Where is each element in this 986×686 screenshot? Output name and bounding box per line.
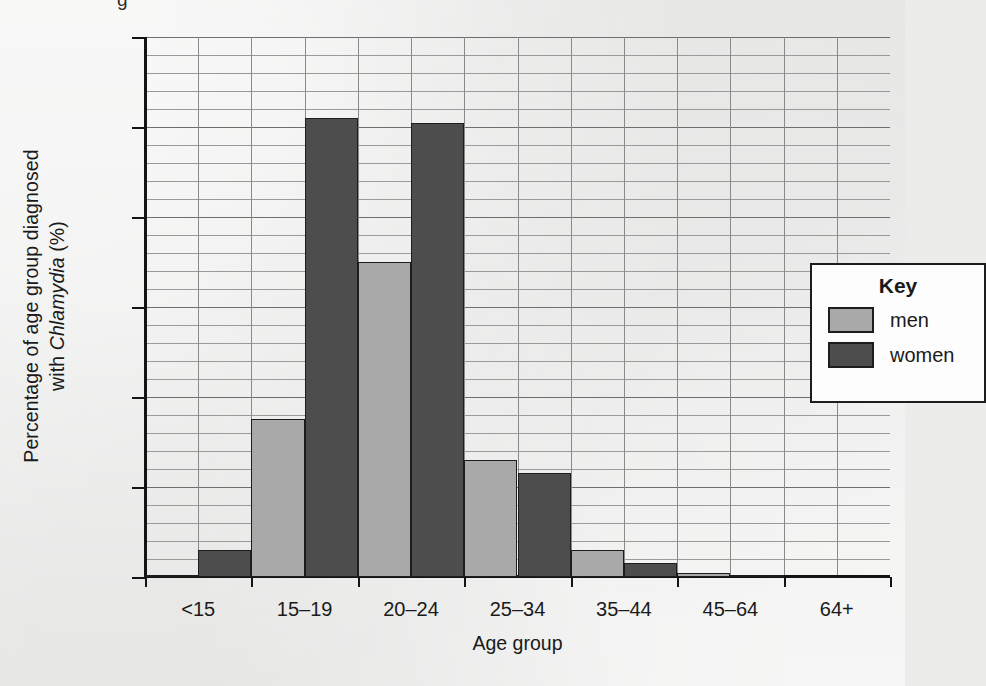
- bar-men-3544: [571, 550, 624, 577]
- y-tick-mark: [132, 307, 145, 309]
- plot-area: 0.00.51.01.52.02.53.0 <1515–1920–2425–34…: [145, 37, 890, 577]
- x-tick-label-15: <15: [138, 598, 258, 621]
- x-tick-mark: [571, 577, 573, 587]
- bar-women-1519: [305, 118, 358, 577]
- y-axis-title-line2-post: (%): [46, 221, 68, 257]
- x-tick-mark: [677, 577, 679, 587]
- bar-women-2534: [518, 473, 571, 577]
- legend-swatch-men: [828, 307, 874, 333]
- legend-label-women: women: [890, 344, 954, 367]
- y-tick-mark: [132, 487, 145, 489]
- bar-men-2534: [464, 460, 517, 577]
- y-tick-mark: [132, 577, 145, 579]
- x-tick-mark: [358, 577, 360, 587]
- bar-men-4564: [677, 573, 730, 578]
- legend-label-men: men: [890, 309, 929, 332]
- x-tick-label-64: 64+: [777, 598, 897, 621]
- x-tick-mark: [251, 577, 253, 587]
- x-axis-title: Age group: [145, 632, 890, 655]
- legend-box: Key men women: [810, 263, 986, 403]
- legend-entry-men: men: [828, 307, 984, 333]
- bar-women-3544: [624, 563, 677, 577]
- y-axis-title: Percentage of age group diagnosed with C…: [18, 96, 74, 516]
- y-tick-mark: [132, 127, 145, 129]
- x-tick-mark: [784, 577, 786, 587]
- bar-men-2024: [358, 262, 411, 577]
- x-tick-label-1519: 15–19: [245, 598, 365, 621]
- y-tick-mark: [132, 217, 145, 219]
- y-axis-title-line1: Percentage of age group diagnosed: [20, 149, 42, 462]
- legend-entry-women: women: [828, 342, 984, 368]
- x-tick-label-2534: 25–34: [458, 598, 578, 621]
- bar-men-15: [145, 575, 198, 577]
- x-tick-label-4564: 45–64: [670, 598, 790, 621]
- x-tick-mark: [145, 577, 147, 587]
- bar-women-2024: [411, 123, 464, 577]
- x-tick-label-3544: 35–44: [564, 598, 684, 621]
- bar-women-4564: [730, 575, 783, 577]
- bar-men-1519: [251, 419, 304, 577]
- y-axis-title-italic-term: Chlamydia: [46, 257, 68, 350]
- y-tick-mark: [132, 397, 145, 399]
- x-tick-mark: [464, 577, 466, 587]
- legend-title: Key: [812, 274, 984, 298]
- bar-women-15: [198, 550, 251, 577]
- x-tick-mark: [890, 577, 892, 587]
- y-axis-title-line2-pre: with: [46, 350, 68, 391]
- legend-swatch-women: [828, 342, 874, 368]
- x-tick-label-2024: 20–24: [351, 598, 471, 621]
- cropped-text-fragment: g: [117, 0, 128, 11]
- y-tick-mark: [132, 37, 145, 39]
